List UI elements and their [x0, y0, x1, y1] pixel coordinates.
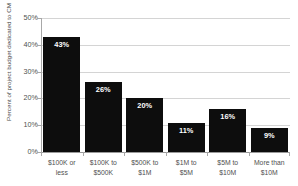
bar-value-label: 20%	[126, 101, 163, 110]
x-axis-tick-label-line: $1M to	[166, 158, 208, 168]
x-axis-tick-label: $100K to$500K	[83, 158, 125, 177]
bar-slot: 26%	[83, 18, 125, 152]
bar-value-label: 43%	[43, 40, 80, 49]
y-axis-tick-label: 30%	[12, 68, 38, 76]
x-axis-tick-marks	[41, 152, 290, 156]
x-axis-tick-label-line: $5M	[166, 168, 208, 178]
x-axis-tick-labels: $100K orless$100K to$500K$500K to$1M$1M …	[41, 158, 290, 184]
y-axis-tick-label: 20%	[12, 94, 38, 102]
bar-slot: 9%	[249, 18, 291, 152]
bar-slot: 16%	[207, 18, 249, 152]
bar-value-label: 16%	[209, 112, 246, 121]
bar[interactable]: 26%	[85, 82, 122, 152]
x-axis-tick-label-line: less	[41, 168, 83, 178]
x-axis-tick-label-line: $10M	[207, 168, 249, 178]
y-axis-tick-labels: 50%40%30%20%10%0%	[12, 0, 38, 186]
x-axis-tick-label: $500K to$1M	[124, 158, 166, 177]
x-axis-tick-mark	[41, 152, 42, 156]
bar[interactable]: 9%	[251, 128, 288, 152]
bar[interactable]: 16%	[209, 109, 246, 152]
bar-value-label: 11%	[168, 126, 205, 135]
x-axis-tick-mark	[83, 152, 84, 156]
x-axis-tick-label: $1M to$5M	[166, 158, 208, 177]
x-axis-tick-mark	[124, 152, 125, 156]
x-axis-tick-label-line: $500K to	[124, 158, 166, 168]
x-axis-tick-mark	[249, 152, 250, 156]
x-axis-tick-label-line: $1M	[124, 168, 166, 178]
x-axis-tick-label-line: More than	[249, 158, 291, 168]
bar-chart-figure: Percent of project budget dedicated to C…	[0, 0, 298, 186]
bar-value-label: 26%	[85, 85, 122, 94]
bar-slot: 11%	[166, 18, 208, 152]
y-axis-tick-label: 50%	[12, 14, 38, 22]
bars-layer: 43%26%20%11%16%9%	[41, 18, 290, 152]
x-axis-tick-mark	[289, 152, 290, 156]
bar-value-label: 9%	[251, 131, 288, 140]
x-axis-tick-label: $5M to$10M	[207, 158, 249, 177]
y-axis-tick-label: 10%	[12, 121, 38, 129]
bar[interactable]: 20%	[126, 98, 163, 152]
x-axis-tick-mark	[166, 152, 167, 156]
bar[interactable]: 43%	[43, 37, 80, 152]
y-axis-tick-label: 40%	[12, 41, 38, 49]
bar[interactable]: 11%	[168, 123, 205, 152]
x-axis-tick-label-line: $10M	[249, 168, 291, 178]
x-axis-tick-label-line: $500K	[83, 168, 125, 178]
x-axis-tick-mark	[207, 152, 208, 156]
x-axis-tick-label-line: $100K to	[83, 158, 125, 168]
bar-slot: 20%	[124, 18, 166, 152]
x-axis-tick-label-line: $100K or	[41, 158, 83, 168]
x-axis-tick-label-line: $5M to	[207, 158, 249, 168]
x-axis-tick-label: $100K orless	[41, 158, 83, 177]
bar-slot: 43%	[41, 18, 83, 152]
y-axis-tick-label: 0%	[12, 148, 38, 156]
x-axis-tick-label: More than$10M	[249, 158, 291, 177]
